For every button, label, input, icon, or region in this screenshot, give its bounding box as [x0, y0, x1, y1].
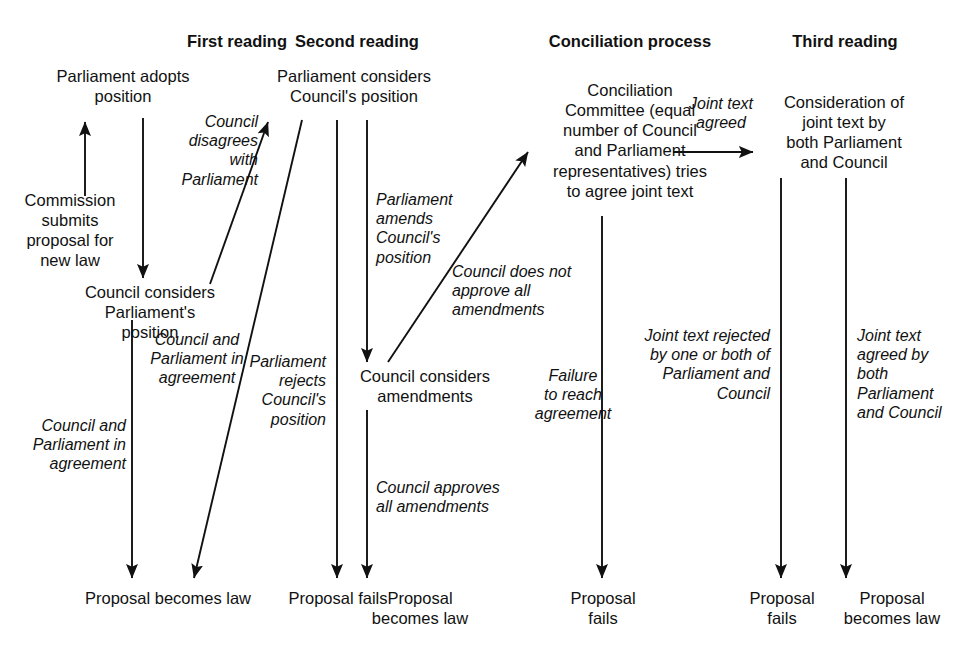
failure-to-reach-agreement: Failure to reach agreement — [528, 366, 618, 424]
joint-text-agreed-by-both: Joint text agreed by both Parliament and… — [857, 326, 977, 422]
outcome-proposal-becomes-law-3: Proposal becomes law — [828, 588, 956, 628]
commission-submits-proposal: Commission submits proposal for new law — [6, 190, 134, 271]
joint-text-rejected-by-one-or-both: Joint text rejected by one or both of Pa… — [618, 326, 770, 403]
council-does-not-approve-all-amendments: Council does not approve all amendments — [452, 262, 612, 320]
legislative-procedure-flowchart: First readingSecond readingConciliation … — [0, 0, 977, 653]
outcome-proposal-fails-2: Proposal fails — [555, 588, 651, 628]
parliament-adopts-position: Parliament adopts position — [18, 66, 228, 106]
parliament-considers-council-position: Parliament considers Council's position — [240, 66, 468, 106]
conciliation-process: Conciliation process — [510, 32, 750, 52]
parliament-amends-councils-position: Parliament amends Council's position — [376, 190, 486, 267]
council-disagrees-with-parliament: Council disagrees with Parliament — [150, 112, 258, 189]
parliament-rejects-councils-position: Parliament rejects Council's position — [214, 352, 326, 429]
outcome-proposal-fails-3: Proposal fails — [735, 588, 829, 628]
joint-text-agreed-top: Joint text agreed — [676, 94, 766, 132]
council-considers-amendments: Council considers amendments — [330, 366, 520, 406]
outcome-proposal-becomes-law-2: Proposal becomes law — [358, 588, 482, 628]
council-and-parliament-in-agreement-left: Council and Parliament in agreement — [4, 416, 126, 474]
second-reading: Second reading — [252, 32, 462, 52]
third-reading: Third reading — [740, 32, 950, 52]
consideration-of-joint-text: Consideration of joint text by both Parl… — [753, 92, 935, 173]
council-approves-all-amendments: Council approves all amendments — [376, 478, 546, 516]
